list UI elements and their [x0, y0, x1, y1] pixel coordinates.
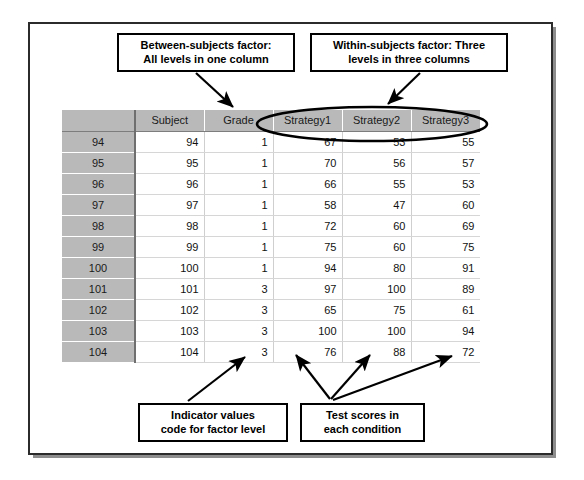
callout-indicator-values-text: Indicator valuescode for factor level	[161, 409, 266, 436]
callout-within-subjects-text: Within-subjects factor: Threelevels in t…	[333, 39, 485, 66]
cell-strategy1[interactable]: 75	[273, 236, 342, 257]
table-row[interactable]: 98981726069	[62, 215, 480, 236]
cell-strategy1[interactable]: 72	[273, 215, 342, 236]
callout-within-subjects: Within-subjects factor: Threelevels in t…	[310, 33, 508, 72]
row-number-cell[interactable]: 98	[62, 215, 135, 236]
cell-subject[interactable]: 102	[135, 299, 204, 320]
cell-strategy2[interactable]: 47	[342, 194, 411, 215]
cell-strategy1[interactable]: 58	[273, 194, 342, 215]
row-number-cell[interactable]: 101	[62, 278, 135, 299]
cell-grade[interactable]: 1	[204, 257, 273, 278]
row-number-cell[interactable]: 100	[62, 257, 135, 278]
table-row[interactable]: 1021023657561	[62, 299, 480, 320]
cell-subject[interactable]: 94	[135, 131, 204, 152]
table-row[interactable]: 95951705657	[62, 152, 480, 173]
row-number-cell[interactable]: 104	[62, 341, 135, 362]
cell-grade[interactable]: 3	[204, 362, 273, 363]
table-row[interactable]: 103103310010094	[62, 320, 480, 341]
data-grid[interactable]: Subject Grade Strategy1 Strategy2 Strate…	[62, 110, 480, 363]
spreadsheet-table: Subject Grade Strategy1 Strategy2 Strate…	[62, 110, 480, 363]
column-header-subject[interactable]: Subject	[135, 110, 204, 131]
cell-grade[interactable]: 1	[204, 131, 273, 152]
row-number-cell[interactable]: 97	[62, 194, 135, 215]
cell-subject[interactable]: 101	[135, 278, 204, 299]
table-row[interactable]: 94941675355	[62, 131, 480, 152]
cell-subject[interactable]: 104	[135, 341, 204, 362]
table-row[interactable]: 1041043768872	[62, 341, 480, 362]
cell-subject[interactable]: 105	[135, 362, 204, 363]
cell-strategy1[interactable]: 70	[273, 152, 342, 173]
cell-strategy2[interactable]: 88	[342, 341, 411, 362]
cell-subject[interactable]: 103	[135, 320, 204, 341]
row-number-cell[interactable]: 103	[62, 320, 135, 341]
table-body: 9494167535595951705657969616655539797158…	[62, 131, 480, 363]
row-number-cell[interactable]: 94	[62, 131, 135, 152]
cell-strategy3[interactable]: 91	[411, 257, 480, 278]
corner-cell[interactable]	[62, 110, 135, 131]
cell-subject[interactable]: 96	[135, 173, 204, 194]
cell-strategy3[interactable]: 69	[411, 215, 480, 236]
cell-grade[interactable]: 1	[204, 194, 273, 215]
cell-grade[interactable]: 1	[204, 236, 273, 257]
column-header-strategy2[interactable]: Strategy2	[342, 110, 411, 131]
cell-strategy2[interactable]: 100	[342, 362, 411, 363]
cell-subject[interactable]: 98	[135, 215, 204, 236]
table-header: Subject Grade Strategy1 Strategy2 Strate…	[62, 110, 480, 131]
cell-strategy2[interactable]: 55	[342, 173, 411, 194]
cell-strategy1[interactable]: 89	[273, 362, 342, 363]
table-row[interactable]: 96961665553	[62, 173, 480, 194]
cell-strategy3[interactable]: 94	[411, 320, 480, 341]
table-row[interactable]: 97971584760	[62, 194, 480, 215]
cell-grade[interactable]: 3	[204, 299, 273, 320]
cell-grade[interactable]: 1	[204, 173, 273, 194]
cell-strategy1[interactable]: 65	[273, 299, 342, 320]
cell-subject[interactable]: 99	[135, 236, 204, 257]
cell-subject[interactable]: 95	[135, 152, 204, 173]
cell-strategy2[interactable]: 75	[342, 299, 411, 320]
row-number-cell[interactable]: 99	[62, 236, 135, 257]
cell-strategy3[interactable]: 55	[411, 131, 480, 152]
cell-subject[interactable]: 97	[135, 194, 204, 215]
cell-strategy2[interactable]: 80	[342, 257, 411, 278]
cell-strategy3[interactable]: 72	[411, 341, 480, 362]
cell-strategy1[interactable]: 76	[273, 341, 342, 362]
cell-strategy2[interactable]: 100	[342, 320, 411, 341]
row-number-cell[interactable]: 95	[62, 152, 135, 173]
cell-strategy3[interactable]: 60	[411, 194, 480, 215]
cell-strategy3[interactable]: 53	[411, 173, 480, 194]
table-row[interactable]: 10110139710089	[62, 278, 480, 299]
cell-strategy2[interactable]: 60	[342, 236, 411, 257]
table-row[interactable]: 99991756075	[62, 236, 480, 257]
cell-strategy1[interactable]: 97	[273, 278, 342, 299]
cell-strategy1[interactable]: 66	[273, 173, 342, 194]
row-number-cell[interactable]: 96	[62, 173, 135, 194]
cell-grade[interactable]: 1	[204, 152, 273, 173]
table-row[interactable]: 10510538910086	[62, 362, 480, 363]
cell-strategy1[interactable]: 100	[273, 320, 342, 341]
row-number-cell[interactable]: 105	[62, 362, 135, 363]
cell-strategy2[interactable]: 56	[342, 152, 411, 173]
cell-strategy1[interactable]: 94	[273, 257, 342, 278]
cell-strategy2[interactable]: 53	[342, 131, 411, 152]
cell-grade[interactable]: 1	[204, 215, 273, 236]
table-row[interactable]: 1001001948091	[62, 257, 480, 278]
cell-strategy2[interactable]: 100	[342, 278, 411, 299]
column-header-grade[interactable]: Grade	[204, 110, 273, 131]
column-header-strategy1[interactable]: Strategy1	[273, 110, 342, 131]
slide-canvas: Between-subjects factor:All levels in on…	[0, 0, 584, 480]
callout-between-subjects-text: Between-subjects factor:All levels in on…	[141, 39, 272, 66]
cell-strategy1[interactable]: 67	[273, 131, 342, 152]
cell-strategy3[interactable]: 57	[411, 152, 480, 173]
callout-test-scores-text: Test scores ineach condition	[324, 409, 402, 436]
cell-strategy3[interactable]: 86	[411, 362, 480, 363]
cell-strategy2[interactable]: 60	[342, 215, 411, 236]
cell-strategy3[interactable]: 61	[411, 299, 480, 320]
cell-grade[interactable]: 3	[204, 320, 273, 341]
cell-grade[interactable]: 3	[204, 341, 273, 362]
column-header-strategy3[interactable]: Strategy3	[411, 110, 480, 131]
cell-strategy3[interactable]: 89	[411, 278, 480, 299]
cell-strategy3[interactable]: 75	[411, 236, 480, 257]
cell-subject[interactable]: 100	[135, 257, 204, 278]
cell-grade[interactable]: 3	[204, 278, 273, 299]
row-number-cell[interactable]: 102	[62, 299, 135, 320]
